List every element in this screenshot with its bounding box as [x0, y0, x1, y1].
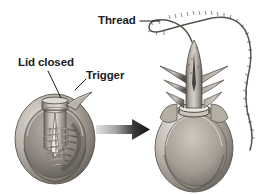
panel-discharged-nematocyst — [148, 11, 255, 192]
lower-lobe-right — [211, 104, 228, 123]
label-lid-closed: Lid closed — [18, 57, 74, 69]
panel-undischarged-nematocyst — [15, 92, 95, 184]
transition-arrow — [96, 119, 150, 140]
nematocyst-diagram — [0, 0, 260, 194]
lower-lobe-left — [160, 104, 177, 123]
label-thread: Thread — [98, 15, 136, 27]
label-trigger: Trigger — [86, 70, 124, 82]
discharged-capsule-cavity — [165, 114, 227, 186]
leader-line-trigger — [75, 79, 86, 90]
